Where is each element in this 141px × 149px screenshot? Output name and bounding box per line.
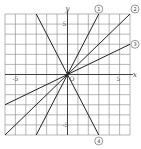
x-tick-label: -5 xyxy=(12,75,18,82)
coordinate-plane: x y O -555-51234 xyxy=(0,0,141,149)
y-axis-label: y xyxy=(65,5,71,13)
origin-label: O xyxy=(70,75,75,82)
line-label-text: 1 xyxy=(97,6,100,12)
x-tick-label: 5 xyxy=(117,75,121,82)
line-label-text: 2 xyxy=(133,6,136,12)
line-label-4: 4 xyxy=(95,137,103,145)
x-axis-label: x xyxy=(133,71,137,79)
y-tick-label: -5 xyxy=(63,121,69,128)
line-label-3: 3 xyxy=(131,40,139,48)
labels: x y O -555-51234 xyxy=(12,5,139,145)
line-label-2: 2 xyxy=(131,5,139,13)
line-label-1: 1 xyxy=(95,5,103,13)
line-label-text: 4 xyxy=(97,138,100,144)
y-tick-label: 5 xyxy=(63,20,67,27)
line-label-text: 3 xyxy=(133,41,136,47)
